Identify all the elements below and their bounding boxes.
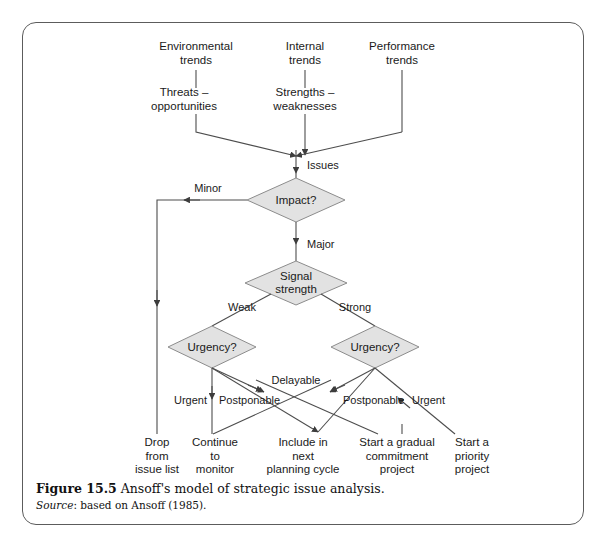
figure-caption: Figure 15.5 Ansoff's model of strategic … — [36, 481, 556, 512]
edge-label-urgent-left: Urgent — [174, 394, 207, 407]
node-performance-trends: Performance trends — [347, 40, 457, 67]
edge-delayable-arrow-left — [248, 385, 262, 391]
edge-label-delayable: Delayable — [272, 374, 321, 387]
node-start-a-priority-project: Start a priority project — [431, 436, 513, 477]
caption-title-line: Figure 15.5 Ansoff's model of strategic … — [36, 481, 556, 497]
caption-figure-number: Figure 15.5 — [36, 481, 117, 496]
node-internal-trends: Internal trends — [260, 40, 350, 67]
edge-cross-left-to-gradual — [256, 380, 378, 434]
node-strengths-weaknesses: Strengths – weaknesses — [250, 86, 360, 113]
label-decision-signal-strength: Signal strength — [260, 270, 332, 296]
edge-label-postponable-right: Postponable — [343, 394, 404, 407]
node-continue-to-monitor: Continue to monitor — [172, 436, 258, 477]
label-decision-urgency-right: Urgency? — [335, 341, 415, 354]
caption-source-text: : based on Ansoff (1985). — [73, 499, 206, 511]
node-issues: Issues — [307, 159, 339, 172]
node-threats-opportunities: Threats – opportunities — [124, 86, 244, 113]
edge-cross-right-to-continue — [213, 380, 331, 434]
label-decision-impact: Impact? — [256, 194, 336, 207]
edge-label-urgent-right: Urgent — [412, 394, 445, 407]
figure-page: Environmental trends Internal trends Per… — [0, 0, 606, 539]
label-decision-urgency-left: Urgency? — [172, 341, 252, 354]
node-include-in-next-planning-cycle: Include in next planning cycle — [251, 436, 355, 477]
caption-source-line: Source: based on Ansoff (1985). — [36, 498, 556, 512]
edge-label-strong: Strong — [339, 301, 371, 314]
node-environmental-trends: Environmental trends — [136, 40, 256, 67]
edge-delayable-arrow-right — [331, 385, 345, 391]
caption-title-text: Ansoff's model of strategic issue analys… — [121, 481, 385, 496]
edge-threats-to-issues — [196, 114, 296, 156]
edge-label-weak: Weak — [228, 301, 256, 314]
edge-performance-to-issues — [296, 132, 402, 156]
caption-source-label: Source — [36, 499, 73, 511]
edge-label-postponable-left: Postponable — [219, 394, 280, 407]
edge-label-minor: Minor — [194, 182, 222, 195]
edge-label-major: Major — [307, 238, 335, 251]
